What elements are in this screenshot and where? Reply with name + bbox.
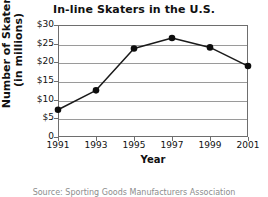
y-axis-title: Number of Skaters (in millions) (0, 0, 27, 106)
y-tick-label: $15 (14, 75, 54, 85)
x-tick-mark (96, 137, 97, 141)
y-tick-label: $20 (14, 56, 54, 66)
y-tick-label: $5 (14, 112, 54, 122)
data-point-marker (207, 44, 214, 51)
data-series-skaters (58, 25, 248, 137)
data-point-marker (245, 63, 252, 70)
x-tick-mark (248, 137, 249, 141)
x-tick-mark (58, 137, 59, 141)
series-line (58, 38, 248, 110)
data-point-marker (131, 45, 138, 52)
data-point-marker (93, 87, 100, 94)
data-point-marker (55, 106, 62, 113)
x-tick-label: 1991 (38, 140, 78, 150)
line-chart-figure: In-line Skaters in the U.S. Number of Sk… (0, 0, 268, 197)
x-tick-label: 1995 (114, 140, 154, 150)
x-tick-mark (134, 137, 135, 141)
x-tick-mark (172, 137, 173, 141)
data-point-marker (169, 35, 176, 42)
y-tick-label: $10 (14, 94, 54, 104)
chart-title: In-line Skaters in the U.S. (0, 3, 268, 16)
x-tick-mark (210, 137, 211, 141)
y-tick-label: $30 (14, 19, 54, 29)
series-markers (55, 35, 252, 113)
x-tick-label: 1999 (190, 140, 230, 150)
source-note: Source: Sporting Goods Manufacturers Ass… (0, 188, 268, 197)
y-tick-label: $25 (14, 38, 54, 48)
x-axis-title: Year (58, 154, 248, 165)
x-tick-label: 2001 (228, 140, 268, 150)
x-tick-label: 1993 (76, 140, 116, 150)
x-tick-label: 1997 (152, 140, 192, 150)
